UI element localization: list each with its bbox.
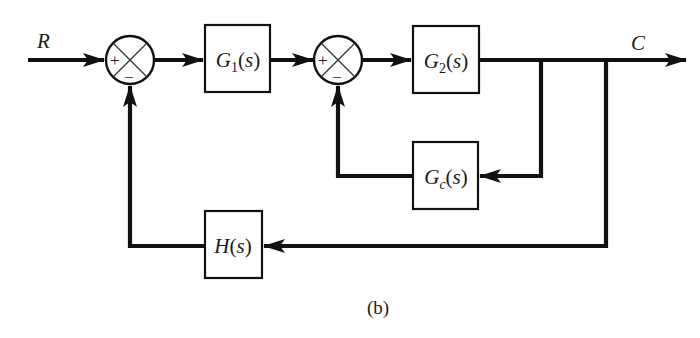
sum2-plus-sign: + <box>318 51 328 70</box>
sum1-minus-sign: − <box>124 68 134 87</box>
svg-text:Gc(s): Gc(s) <box>424 165 468 192</box>
figure-caption: (b) <box>367 297 389 319</box>
svg-text:G1(s): G1(s) <box>216 48 260 75</box>
svg-text:G2(s): G2(s) <box>424 49 468 76</box>
inner-feedback-branch <box>480 60 541 176</box>
sum2-minus-sign: − <box>332 68 342 87</box>
block-g2: G2(s) <box>413 26 479 93</box>
outer-feedback-return <box>130 86 205 246</box>
block-h: H(s) <box>205 211 262 278</box>
block-g1: G1(s) <box>205 25 270 92</box>
output-signal-label: C <box>631 31 646 55</box>
input-signal-label: R <box>36 29 50 53</box>
block-diagram: R + − G1(s) + − G2(s) C <box>0 0 700 338</box>
inner-feedback-return <box>338 86 413 176</box>
summing-junction-2: + − <box>314 36 362 87</box>
block-gc: Gc(s) <box>413 142 478 209</box>
sum1-plus-sign: + <box>110 51 120 70</box>
svg-text:H(s): H(s) <box>213 234 251 258</box>
summing-junction-1: + − <box>106 36 154 87</box>
